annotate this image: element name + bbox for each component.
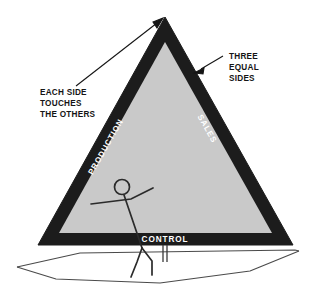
annotation-line: SIDES [229, 74, 255, 83]
diagram-canvas: PRODUCTION SALES CONTROL THREE EQUAL SID… [0, 0, 310, 291]
annotation-three-equal-sides: THREE EQUAL SIDES [229, 52, 259, 83]
annotation-line: TOUCHES [40, 99, 82, 108]
three-equal-sides-arrow [194, 56, 223, 74]
annotation-line: EQUAL [229, 63, 259, 72]
side-label-control: CONTROL [142, 235, 189, 244]
boat-hull [17, 250, 299, 283]
triangle-sail-diagram: PRODUCTION SALES CONTROL THREE EQUAL SID… [0, 0, 310, 291]
annotation-line: THE OTHERS [40, 110, 96, 119]
mast-post [163, 245, 167, 262]
annotation-each-side-touches: EACH SIDE TOUCHES THE OTHERS [40, 88, 96, 119]
annotation-line: EACH SIDE [40, 88, 87, 97]
annotation-line: THREE [229, 52, 258, 61]
